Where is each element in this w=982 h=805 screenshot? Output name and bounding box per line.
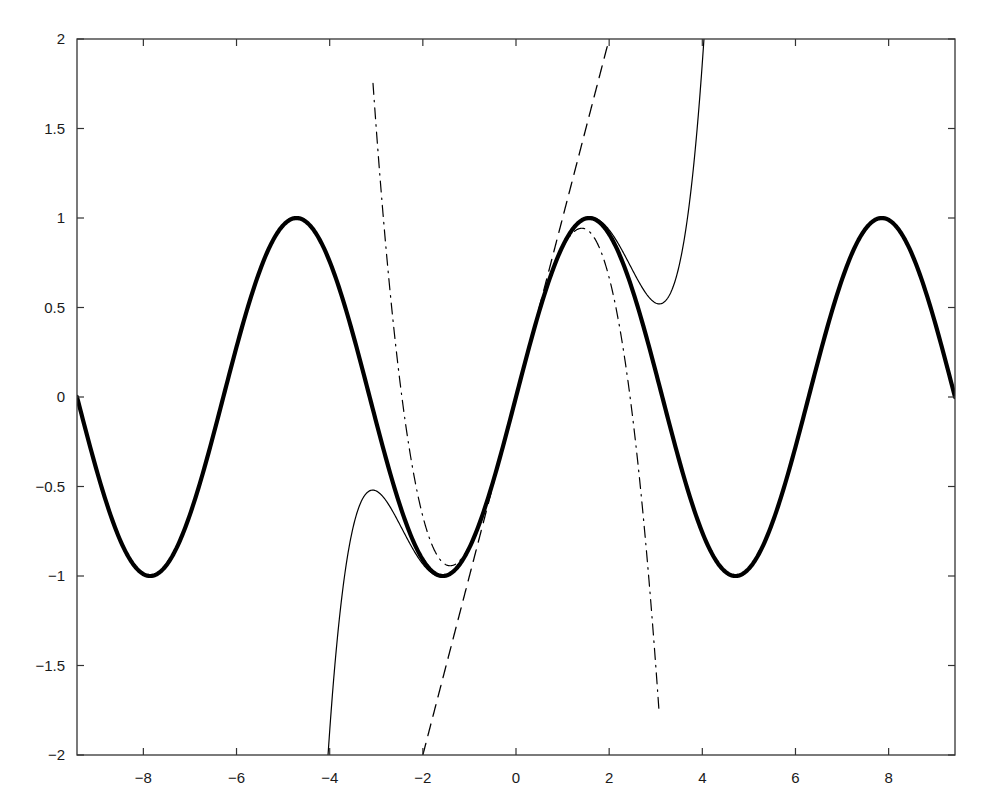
- x-tick-labels: −8−6−4−202468: [135, 769, 893, 786]
- y-tick-label: −2: [48, 746, 65, 763]
- y-tick-label: 1: [57, 209, 65, 226]
- y-tick-label: 0.5: [44, 299, 65, 316]
- y-tick-label: 0: [57, 388, 65, 405]
- x-tick-label: −4: [321, 769, 338, 786]
- x-tick-label: 8: [884, 769, 892, 786]
- y-tick-label: 1.5: [44, 120, 65, 137]
- x-tick-label: −8: [135, 769, 152, 786]
- x-tick-label: −6: [228, 769, 245, 786]
- y-tick-label: 2: [57, 30, 65, 47]
- y-tick-label: −1: [48, 567, 65, 584]
- x-tick-label: 6: [791, 769, 799, 786]
- x-tick-label: 4: [698, 769, 706, 786]
- plot-area: [77, 29, 955, 766]
- x-tick-label: 0: [512, 769, 520, 786]
- series-line-solid-thin: [327, 29, 704, 766]
- y-tick-label: −1.5: [35, 657, 65, 674]
- y-tick-labels: −2−1.5−1−0.500.511.52: [35, 30, 65, 763]
- chart: −8−6−4−202468 −2−1.5−1−0.500.511.52: [0, 0, 982, 805]
- x-tick-label: 2: [605, 769, 613, 786]
- y-tick-label: −0.5: [35, 478, 65, 495]
- x-tick-label: −2: [414, 769, 431, 786]
